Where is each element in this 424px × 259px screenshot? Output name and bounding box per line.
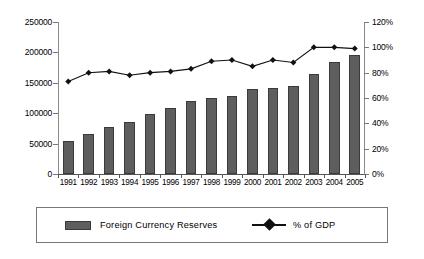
line-marker-diamond bbox=[147, 70, 153, 76]
y-axis-left-tick-label: 150000 bbox=[25, 78, 52, 88]
x-axis-tick-label: 2005 bbox=[346, 178, 363, 187]
line-marker-diamond bbox=[168, 68, 174, 74]
legend-item-percent-of-gdp: % of GDP bbox=[252, 220, 335, 230]
line-series-percent-of-gdp bbox=[58, 22, 365, 174]
chart-legend: Foreign Currency Reserves % of GDP bbox=[36, 207, 388, 243]
y-axis-right-tick-label: 60% bbox=[372, 93, 388, 103]
x-axis-tick-label: 1995 bbox=[142, 178, 159, 187]
x-axis-tick-label: 2000 bbox=[244, 178, 261, 187]
y-axis-left-tick-label: 100000 bbox=[25, 108, 52, 118]
x-axis-labels: 1991199219931994199519961997199819992000… bbox=[58, 178, 365, 192]
line-path bbox=[68, 47, 355, 81]
y-axis-left-tick-label: 200000 bbox=[25, 47, 52, 57]
x-axis-tick-label: 1999 bbox=[223, 178, 240, 187]
y-axis-left-tick-label: 50000 bbox=[29, 139, 52, 149]
line-marker-diamond bbox=[331, 44, 337, 50]
y-axis-right-tick-label: 40% bbox=[372, 118, 388, 128]
x-axis-tick-label: 1993 bbox=[101, 178, 118, 187]
y-axis-right-tick-label: 120% bbox=[372, 17, 393, 27]
y-axis-right-tick-label: 100% bbox=[372, 42, 393, 52]
line-marker-diamond bbox=[188, 66, 194, 72]
line-marker-diamond bbox=[229, 57, 235, 63]
line-marker-diamond bbox=[127, 72, 133, 78]
y-axis-left-tick-label: 250000 bbox=[25, 17, 52, 27]
legend-item-label: % of GDP bbox=[293, 220, 335, 230]
line-marker-diamond bbox=[352, 46, 358, 52]
legend-item-label: Foreign Currency Reserves bbox=[100, 220, 217, 230]
y-axis-right-tick-label: 20% bbox=[372, 144, 388, 154]
y-axis-right-tick-label: 80% bbox=[372, 68, 388, 78]
line-marker-diamond bbox=[86, 70, 92, 76]
chart-container: 050000100000150000200000250000 0%20%40%6… bbox=[0, 0, 424, 259]
x-axis-tick-label: 2003 bbox=[305, 178, 322, 187]
line-marker-diamond bbox=[249, 63, 255, 69]
x-axis-tick-label: 1998 bbox=[203, 178, 220, 187]
x-axis-line bbox=[58, 174, 365, 175]
line-marker-diamond bbox=[106, 68, 112, 74]
x-axis-tick bbox=[365, 174, 366, 178]
legend-item-foreign-currency-reserves: Foreign Currency Reserves bbox=[65, 220, 217, 230]
line-diamond-icon bbox=[252, 220, 286, 230]
plot-area: 050000100000150000200000250000 0%20%40%6… bbox=[58, 22, 365, 174]
x-axis-tick-label: 2002 bbox=[285, 178, 302, 187]
bar-swatch-icon bbox=[65, 221, 91, 230]
x-axis-tick-label: 1994 bbox=[121, 178, 138, 187]
line-marker-diamond bbox=[270, 57, 276, 63]
x-axis-tick-label: 1997 bbox=[183, 178, 200, 187]
x-axis-tick-label: 2001 bbox=[264, 178, 281, 187]
x-axis-tick-label: 2004 bbox=[326, 178, 343, 187]
x-axis-tick-label: 1991 bbox=[60, 178, 77, 187]
line-marker-diamond bbox=[65, 79, 71, 85]
y-axis-left-tick-label: 0 bbox=[47, 169, 52, 179]
y-axis-right-tick-label: 0% bbox=[372, 169, 384, 179]
x-axis-tick-label: 1992 bbox=[80, 178, 97, 187]
line-marker-diamond bbox=[209, 58, 215, 64]
x-axis-tick-label: 1996 bbox=[162, 178, 179, 187]
